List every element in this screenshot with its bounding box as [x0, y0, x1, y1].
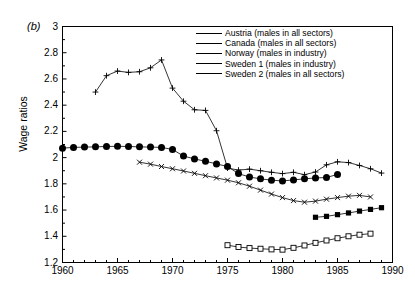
y-axis-tick-label: 2.2: [24, 126, 58, 136]
filled-square-marker: [357, 209, 362, 214]
cross-x-marker: [236, 180, 241, 185]
open-square-marker: [258, 246, 263, 251]
filled-circle-marker: [268, 177, 275, 184]
plus-marker: [104, 73, 110, 79]
filled-circle-marker: [191, 155, 198, 162]
filled-circle-marker: [125, 143, 132, 150]
filled-circle-marker: [70, 144, 77, 151]
y-axis-tick-label: 2.6: [24, 74, 58, 84]
filled-circle-marker: [114, 143, 121, 150]
open-square-marker: [302, 243, 307, 248]
series-filled-circle: [59, 143, 341, 185]
legend-key-sweden2: [196, 69, 222, 79]
wage-ratios-figure: (b) Wage ratios 32.82.62.42.221.81.61.41…: [0, 0, 415, 289]
open-square-marker: [247, 246, 252, 251]
filled-square-marker: [379, 205, 384, 210]
series-cross-x: [137, 160, 373, 205]
plus-marker: [137, 69, 143, 75]
series-line: [63, 146, 338, 181]
legend-label: Austria (males in all sectors): [225, 28, 333, 38]
y-axis-tick-label: 1.6: [24, 205, 58, 215]
y-axis-tick-label: 3: [24, 22, 58, 32]
plus-marker: [368, 166, 374, 172]
y-axis-tick-labels: 32.82.62.42.221.81.61.41.2: [22, 0, 58, 289]
plus-marker: [313, 169, 319, 175]
legend-key-canada: [196, 38, 222, 48]
filled-circle-marker: [246, 174, 253, 181]
filled-circle-marker: [235, 170, 242, 177]
filled-circle-marker: [202, 158, 209, 165]
open-square-marker: [225, 243, 230, 248]
series-open-square: [225, 231, 373, 252]
cross-x-marker: [269, 192, 274, 197]
filled-circle-marker: [59, 145, 66, 152]
filled-circle-marker: [103, 143, 110, 150]
filled-circle-marker: [323, 174, 330, 181]
plus-marker: [93, 89, 99, 95]
filled-circle-marker: [334, 171, 341, 178]
plus-marker: [214, 128, 220, 134]
x-axis-tick-label: 1970: [153, 266, 193, 276]
y-axis-tick-label: 2.4: [24, 100, 58, 110]
plus-marker: [159, 57, 165, 63]
plus-marker: [269, 169, 275, 175]
y-axis-tick-label: 1.4: [24, 231, 58, 241]
filled-circle-marker: [158, 144, 165, 151]
plus-marker: [291, 169, 297, 175]
legend-label: Norway (males in industry): [225, 48, 327, 58]
filled-circle-marker: [224, 163, 231, 170]
cross-x-marker: [204, 38, 214, 48]
legend-item-sweden1: Sweden 1 (males in industry): [196, 59, 344, 69]
open-square-marker: [269, 247, 274, 252]
x-axis-tick-label: 1975: [208, 266, 248, 276]
open-square-marker: [280, 247, 285, 252]
filled-circle-marker: [204, 59, 214, 69]
cross-x-marker: [258, 188, 263, 193]
legend-item-sweden2: Sweden 2 (males in all sectors): [196, 69, 344, 79]
open-square-marker: [236, 245, 241, 250]
x-axis-tick-label: 1990: [373, 266, 413, 276]
plus-marker: [115, 68, 121, 74]
open-square-marker: [204, 69, 214, 79]
filled-circle-marker: [213, 160, 220, 167]
plus-marker: [148, 65, 154, 71]
filled-circle-marker: [136, 143, 143, 150]
legend-item-canada: Canada (males in all sectors): [196, 38, 344, 48]
open-square-marker: [291, 245, 296, 250]
series-filled-square: [313, 205, 384, 220]
y-axis-tick-label: 1.8: [24, 179, 58, 189]
x-axis-tick-label: 1960: [43, 266, 83, 276]
y-axis-tick-label: 2.8: [24, 48, 58, 58]
filled-circle-marker: [81, 144, 88, 151]
filled-circle-marker: [290, 176, 297, 183]
open-square-marker: [324, 238, 329, 243]
open-square-marker: [357, 232, 362, 237]
plus-marker: [346, 160, 352, 166]
x-axis-tick-label: 1980: [263, 266, 303, 276]
cross-x-marker: [247, 184, 252, 189]
open-square-marker: [335, 236, 340, 241]
legend-label: Canada (males in all sectors): [225, 38, 336, 48]
filled-circle-marker: [279, 177, 286, 184]
filled-circle-marker: [312, 174, 319, 181]
open-square-marker: [346, 234, 351, 239]
plus-marker: [204, 48, 214, 58]
plus-marker: [324, 162, 330, 168]
cross-x-marker: [280, 195, 285, 200]
x-axis-tick-label: 1965: [98, 266, 138, 276]
x-axis-tick-labels: 1960196519701975198019851990: [0, 266, 415, 280]
plus-marker: [247, 166, 253, 172]
filled-square-marker: [324, 214, 329, 219]
filled-square-marker: [204, 28, 214, 38]
plus-marker: [280, 171, 286, 177]
legend-key-sweden1: [196, 59, 222, 69]
filled-circle-marker: [301, 175, 308, 182]
filled-circle-marker: [147, 144, 154, 151]
filled-square-marker: [335, 212, 340, 217]
open-square-marker: [313, 240, 318, 245]
legend-label: Sweden 2 (males in all sectors): [225, 69, 344, 79]
filled-circle-marker: [92, 143, 99, 150]
plus-marker: [126, 69, 132, 75]
plus-marker: [379, 170, 385, 176]
plus-marker: [335, 159, 341, 165]
